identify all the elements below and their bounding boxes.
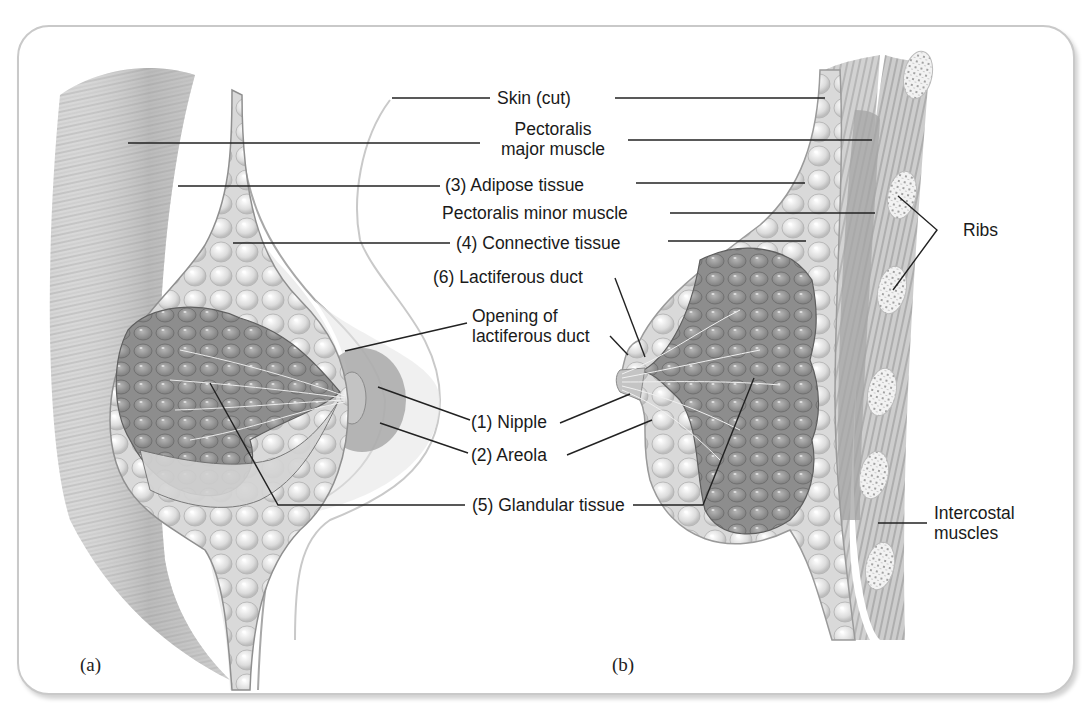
label-pectoralis-major-line1: Pectoralis bbox=[486, 119, 620, 139]
label-adipose-tissue: (3) Adipose tissue bbox=[445, 175, 584, 195]
label-ribs: Ribs bbox=[963, 220, 998, 240]
label-opening-lactiferous-duct: Opening of lactiferous duct bbox=[472, 306, 590, 346]
label-glandular-tissue: (5) Glandular tissue bbox=[472, 495, 625, 515]
panel-label-b: (b) bbox=[612, 654, 634, 676]
panel-label-a: (a) bbox=[80, 654, 101, 676]
panel-b-illustration bbox=[616, 49, 936, 640]
label-opening-line2: lactiferous duct bbox=[472, 326, 590, 346]
label-intercostal-muscles: Intercostal muscles bbox=[934, 503, 1015, 543]
label-intercostal-line2: muscles bbox=[934, 523, 1015, 543]
panel-a-illustration bbox=[50, 68, 440, 690]
label-pectoralis-major: Pectoralis major muscle bbox=[486, 119, 620, 159]
label-pectoralis-minor: Pectoralis minor muscle bbox=[442, 203, 628, 223]
label-skin-cut: Skin (cut) bbox=[497, 88, 571, 108]
label-intercostal-line1: Intercostal bbox=[934, 503, 1015, 523]
label-pectoralis-major-line2: major muscle bbox=[486, 139, 620, 159]
label-areola: (2) Areola bbox=[471, 445, 547, 465]
label-lactiferous-duct: (6) Lactiferous duct bbox=[433, 267, 583, 287]
label-opening-line1: Opening of bbox=[472, 306, 590, 326]
label-nipple: (1) Nipple bbox=[471, 412, 547, 432]
label-connective-tissue: (4) Connective tissue bbox=[456, 233, 620, 253]
